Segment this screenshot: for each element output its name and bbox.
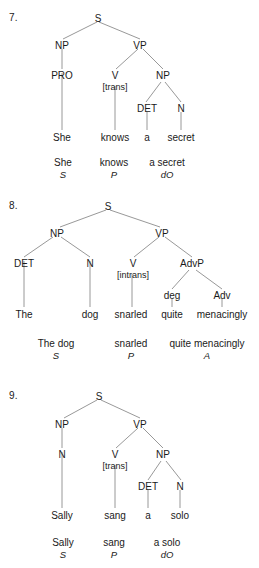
edge-vp-v (116, 49, 138, 69)
edge-np-n (166, 461, 181, 480)
node-v: V (130, 258, 137, 269)
summary-role-1: S (60, 169, 67, 180)
summary-role-3: dO (161, 169, 174, 180)
edge-vp-v (116, 428, 138, 448)
node-np-subject: NP (55, 419, 69, 430)
summary-phrase-3: a secret (149, 157, 185, 168)
exercise-9-tree-diagram: S NP VP N V [trans] NP DET N Sally sang … (0, 380, 259, 568)
summary-role-2: P (128, 350, 135, 361)
word-1: Sally (51, 510, 73, 521)
edge-np-det (148, 461, 161, 480)
summary-role-2: P (111, 169, 118, 180)
node-np-subject: NP (55, 40, 69, 51)
node-n: N (176, 481, 183, 492)
summary-phrase-2: snarled (115, 338, 148, 349)
node-pro: PRO (51, 70, 73, 81)
node-v: V (112, 449, 119, 460)
exercise-9-block: 9. S NP VP N V [trans] NP DET N Sally sa… (0, 380, 259, 568)
node-adv: Adv (213, 290, 230, 301)
word-1: The (15, 309, 33, 320)
node-vp: VP (133, 40, 147, 51)
edge-s-np (64, 400, 97, 418)
word-5: menacingly (197, 309, 248, 320)
node-np-subject: NP (50, 228, 64, 239)
exercise-8-block: 8. S NP VP DET N V [intrans] AdvP deg Ad… (0, 190, 259, 380)
node-np-object: NP (156, 70, 170, 81)
node-det: DET (138, 481, 158, 492)
node-s: S (96, 391, 103, 402)
edge-s-np (63, 22, 97, 39)
word-3: snarled (115, 309, 148, 320)
node-deg: deg (164, 290, 181, 301)
summary-phrase-3: quite menacingly (169, 338, 244, 349)
edge-s-vp (101, 400, 140, 418)
node-v-feature: [trans] (102, 82, 127, 92)
node-det: DET (14, 258, 34, 269)
node-s: S (95, 13, 102, 24)
edge-np-det (24, 237, 53, 257)
edge-s-vp (110, 210, 160, 227)
node-det: DET (137, 103, 157, 114)
summary-role-2: P (111, 549, 118, 560)
exercise-7-block: 7. S NP VP PRO V [trans] NP DET N She kn… (0, 0, 259, 190)
node-vp: VP (133, 419, 147, 430)
word-2: dog (82, 309, 99, 320)
node-np-object: NP (156, 449, 170, 460)
summary-phrase-1: The dog (38, 338, 75, 349)
node-v: V (112, 70, 119, 81)
node-advp: AdvP (180, 258, 204, 269)
edge-np-n (61, 237, 90, 257)
node-s: S (105, 201, 112, 212)
summary-role-1: S (53, 350, 60, 361)
word-2: sang (104, 510, 126, 521)
node-n: N (177, 103, 184, 114)
edge-np-n (165, 82, 181, 102)
summary-phrase-1: Sally (52, 537, 74, 548)
summary-phrase-2: sang (103, 537, 125, 548)
node-v-feature: [trans] (102, 461, 127, 471)
node-v-feature: [intrans] (117, 270, 149, 280)
summary-phrase-3: a solo (154, 537, 181, 548)
edge-s-np (60, 210, 106, 227)
word-1: She (53, 132, 71, 143)
edge-vp-np (143, 49, 163, 69)
summary-role-3: dO (161, 549, 174, 560)
word-4: quite (161, 309, 183, 320)
word-4: secret (167, 132, 194, 143)
edge-s-vp (99, 22, 140, 39)
exercise-7-tree-diagram: S NP VP PRO V [trans] NP DET N She knows… (0, 0, 259, 190)
edge-vp-advp (165, 237, 192, 257)
word-2: knows (101, 132, 129, 143)
summary-phrase-2: knows (100, 157, 128, 168)
summary-phrase-1: She (54, 157, 72, 168)
summary-role-1: S (60, 549, 67, 560)
word-3: a (144, 132, 150, 143)
node-vp: VP (155, 228, 169, 239)
edge-advp-adv (196, 270, 222, 289)
edge-vp-np (143, 428, 163, 448)
summary-role-3: A (203, 350, 210, 361)
word-4: solo (171, 510, 190, 521)
word-3: a (145, 510, 151, 521)
exercise-8-tree-diagram: S NP VP DET N V [intrans] AdvP deg Adv T… (0, 190, 259, 380)
edge-np-det (146, 82, 161, 102)
edge-vp-v (134, 237, 159, 257)
node-n: N (86, 258, 93, 269)
edge-advp-deg (172, 270, 189, 289)
node-n-subject: N (58, 449, 65, 460)
